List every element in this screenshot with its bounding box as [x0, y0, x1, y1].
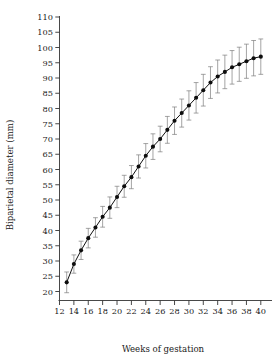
data-point [129, 175, 133, 179]
y-tick-label: 25 [43, 271, 53, 281]
x-tick-label: 32 [198, 306, 208, 316]
x-tick-label: 38 [241, 306, 251, 316]
y-tick-label: 35 [43, 241, 53, 251]
data-point [65, 280, 69, 284]
x-tick-label: 26 [155, 306, 165, 316]
y-axis-title: Biparietal diameter (mm) [5, 120, 15, 231]
x-axis-title: Weeks of gestation [122, 344, 205, 354]
y-tick-label: 45 [43, 210, 53, 220]
y-tick-label: 80 [43, 104, 53, 114]
y-tick-label: 30 [43, 256, 53, 266]
biparietal-diameter-growth-chart: 2025303540455055606570758085909510010511… [0, 0, 280, 361]
data-point [158, 137, 162, 141]
x-tick-label: 18 [97, 306, 107, 316]
data-point [194, 96, 198, 100]
data-point [259, 55, 263, 59]
chart-container: 2025303540455055606570758085909510010511… [0, 0, 280, 361]
x-tick-label: 28 [169, 306, 179, 316]
x-tick-label: 40 [256, 306, 266, 316]
x-tick-label: 12 [54, 306, 64, 316]
data-point [93, 225, 97, 229]
y-tick-label: 75 [43, 119, 53, 129]
data-point [151, 145, 155, 149]
y-tick-label: 100 [37, 43, 53, 53]
data-point [201, 88, 205, 92]
y-tick-label: 55 [43, 180, 53, 190]
y-tick-label: 40 [43, 226, 53, 236]
y-tick-label: 110 [37, 12, 53, 22]
x-tick-label: 14 [69, 306, 79, 316]
x-tick-label: 24 [141, 306, 151, 316]
y-tick-label: 105 [37, 27, 53, 37]
data-point [237, 62, 241, 66]
data-point [172, 119, 176, 123]
data-point [230, 65, 234, 69]
y-tick-label: 65 [43, 149, 53, 159]
data-point [216, 74, 220, 78]
x-tick-label: 22 [126, 306, 136, 316]
data-point [223, 70, 227, 74]
y-tick-label: 85 [43, 88, 53, 98]
x-tick-label: 30 [184, 306, 194, 316]
y-tick-label: 90 [43, 73, 53, 83]
x-tick-label: 36 [227, 306, 237, 316]
x-tick-label: 34 [212, 306, 222, 316]
data-point [108, 206, 112, 210]
data-point [79, 248, 83, 252]
y-tick-label: 60 [43, 165, 53, 175]
data-point [180, 111, 184, 115]
data-point [208, 81, 212, 85]
data-point [86, 236, 90, 240]
x-tick-label: 20 [112, 306, 122, 316]
data-point [72, 262, 76, 266]
y-tick-label: 50 [43, 195, 53, 205]
data-point [137, 164, 141, 168]
data-point [187, 103, 191, 107]
y-tick-label: 95 [43, 58, 53, 68]
data-point [165, 128, 169, 132]
data-point [244, 59, 248, 63]
data-point [252, 56, 256, 60]
x-tick-label: 16 [83, 306, 93, 316]
data-point [144, 154, 148, 158]
data-point [101, 215, 105, 219]
y-tick-label: 70 [43, 134, 53, 144]
y-tick-label: 20 [43, 287, 53, 297]
data-point [115, 195, 119, 199]
data-point [122, 184, 126, 188]
